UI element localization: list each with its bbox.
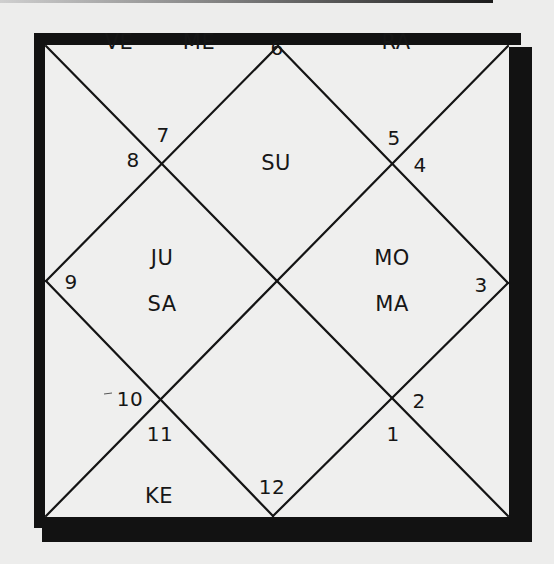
stray-mark — [104, 393, 112, 394]
house-number-11: 11 — [147, 424, 173, 444]
house-number-4: 4 — [413, 155, 426, 175]
planet-mercury: ME — [183, 32, 215, 53]
planet-mars: MA — [375, 294, 408, 315]
planet-jupiter: JU — [151, 248, 174, 269]
house-number-6: 6 — [270, 38, 283, 58]
house-number-7: 7 — [156, 125, 169, 145]
house-number-2: 2 — [412, 391, 425, 411]
planet-ketu: KE — [145, 486, 173, 507]
house-number-9: 9 — [64, 272, 77, 292]
planet-moon: MO — [374, 248, 410, 269]
planet-rahu: RA — [381, 32, 410, 53]
planet-sun: SU — [261, 153, 291, 174]
house-number-10: 10 — [117, 389, 143, 409]
house-number-1: 1 — [386, 424, 399, 444]
house-number-12: 12 — [259, 477, 285, 497]
planet-saturn: SA — [147, 294, 176, 315]
house-number-8: 8 — [126, 150, 139, 170]
house-number-3: 3 — [474, 275, 487, 295]
house-number-5: 5 — [387, 128, 400, 148]
planet-venus: VE — [105, 32, 134, 53]
